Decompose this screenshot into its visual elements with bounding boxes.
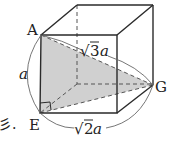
cropped-text-fragment: 彡. [0, 116, 16, 132]
length-label-ag: √ 3 a [80, 42, 109, 60]
length-label-eg: √ 2 a [74, 120, 102, 138]
radical-sign: √ [80, 42, 90, 60]
variable: a [93, 120, 102, 138]
edge-top-right [117, 5, 153, 35]
arc-ae [27, 35, 41, 113]
cube-diagram: A E G a √ 2 a √ 3 a 彡. [0, 0, 169, 154]
vertex-label-e: E [29, 116, 40, 134]
vertex-label-g: G [155, 78, 167, 96]
variable: a [100, 42, 109, 60]
vertex-label-a: A [26, 21, 38, 39]
edge-top-left [41, 5, 77, 35]
length-label-ae: a [19, 65, 28, 83]
radicand: 3 [90, 42, 100, 60]
radical-sign: √ [74, 120, 84, 138]
